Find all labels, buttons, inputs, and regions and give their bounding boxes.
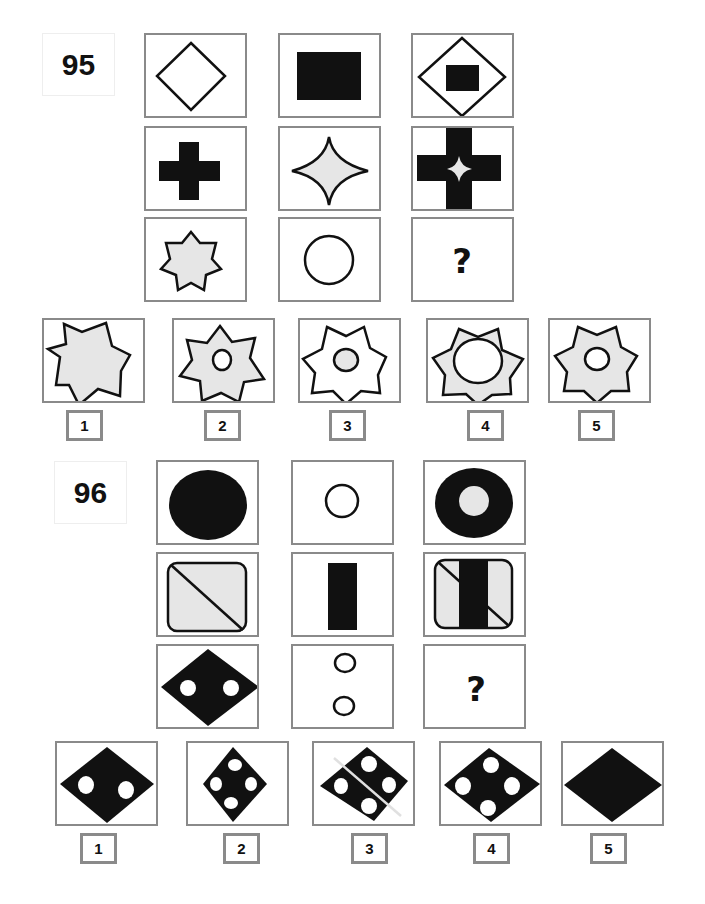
p95-cell-r1c1	[144, 33, 247, 118]
star-no-circle-icon	[44, 320, 143, 401]
p95-cell-r1c3	[411, 33, 514, 118]
outline-circle-icon	[280, 219, 379, 300]
black-ellipse-icon	[158, 462, 257, 543]
p96-option-label-3[interactable]: 3	[351, 833, 388, 864]
question-mark-icon: ?	[413, 219, 512, 300]
diamond-two-dots-icon	[57, 743, 156, 824]
option-label-text: 3	[343, 417, 351, 434]
outline-diamond-icon	[146, 35, 245, 116]
four-point-star-icon	[280, 128, 379, 209]
p96-cell-r1c2	[291, 460, 394, 545]
black-cross-icon	[146, 128, 245, 209]
black-vertical-bar-icon	[293, 554, 392, 635]
p95-cell-r3c3-question: ?	[411, 217, 514, 302]
p95-option-label-2[interactable]: 2	[204, 410, 241, 441]
option-label-text: 2	[218, 417, 226, 434]
two-outline-circles-icon	[293, 646, 392, 727]
rounded-rect-diagonal-icon	[158, 554, 257, 635]
p96-cell-r2c1	[156, 552, 259, 637]
p95-cell-r2c2	[278, 126, 381, 211]
p96-option-label-1[interactable]: 1	[80, 833, 117, 864]
p96-cell-r1c1	[156, 460, 259, 545]
p95-option-label-4[interactable]: 4	[467, 410, 504, 441]
diamond-with-square-icon	[413, 35, 512, 116]
p95-cell-r2c3	[411, 126, 514, 211]
question-mark-text: ?	[452, 241, 472, 281]
seven-point-star-icon	[146, 219, 245, 300]
option-label-text: 5	[592, 417, 600, 434]
black-rectangle-icon	[280, 35, 379, 116]
p96-cell-r3c2	[291, 644, 394, 729]
p96-cell-r1c3	[423, 460, 526, 545]
plain-black-diamond-icon	[563, 743, 662, 824]
option-label-text: 5	[604, 840, 612, 857]
option-label-text: 3	[365, 840, 373, 857]
diamond-four-dots-icon	[188, 743, 287, 824]
p96-option-4[interactable]	[439, 741, 542, 826]
p96-cell-r2c2	[291, 552, 394, 637]
p96-cell-r3c3-question: ?	[423, 644, 526, 729]
star-large-white-circle-icon	[428, 320, 527, 401]
p96-option-2[interactable]	[186, 741, 289, 826]
p95-cell-r1c2	[278, 33, 381, 118]
black-diamond-two-dots-icon	[158, 646, 257, 727]
star-small-white-circle-icon	[550, 320, 649, 401]
p95-cell-r3c1	[144, 217, 247, 302]
option-label-text: 1	[80, 417, 88, 434]
cross-with-star-icon	[413, 128, 512, 209]
option-label-text: 4	[481, 417, 489, 434]
p95-option-label-1[interactable]: 1	[66, 410, 103, 441]
black-ring-icon	[425, 462, 524, 543]
p95-option-1[interactable]	[42, 318, 145, 403]
question-mark-text: ?	[466, 669, 486, 709]
p96-cell-r3c1	[156, 644, 259, 729]
p95-cell-r3c2	[278, 217, 381, 302]
p95-option-5[interactable]	[548, 318, 651, 403]
question-mark-icon: ?	[425, 646, 524, 727]
p96-option-3[interactable]	[312, 741, 415, 826]
small-outline-circle-icon	[293, 462, 392, 543]
p96-option-label-5[interactable]: 5	[590, 833, 627, 864]
option-label-text: 2	[237, 840, 245, 857]
puzzle-number-95: 95	[42, 33, 115, 96]
p96-option-label-4[interactable]: 4	[473, 833, 510, 864]
p95-option-label-3[interactable]: 3	[329, 410, 366, 441]
option-label-text: 1	[94, 840, 102, 857]
wide-diamond-four-dots-icon	[441, 743, 540, 824]
white-star-gray-circle-icon	[300, 320, 399, 401]
p95-cell-r2c1	[144, 126, 247, 211]
p96-option-5[interactable]	[561, 741, 664, 826]
puzzle-number-96: 96	[54, 461, 127, 524]
p96-cell-r2c3	[423, 552, 526, 637]
option-label-text: 4	[487, 840, 495, 857]
rounded-rect-with-bar-icon	[425, 554, 524, 635]
puzzle-number-text: 96	[74, 476, 107, 510]
puzzle-number-text: 95	[62, 48, 95, 82]
p95-option-2[interactable]	[172, 318, 275, 403]
p95-option-4[interactable]	[426, 318, 529, 403]
p95-option-3[interactable]	[298, 318, 401, 403]
star-small-white-circle-icon	[174, 320, 273, 401]
split-diamond-four-dots-icon	[314, 743, 413, 824]
p95-option-label-5[interactable]: 5	[578, 410, 615, 441]
p96-option-1[interactable]	[55, 741, 158, 826]
p96-option-label-2[interactable]: 2	[223, 833, 260, 864]
